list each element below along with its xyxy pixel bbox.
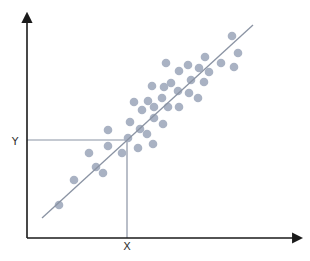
data-point [118, 149, 127, 158]
data-point [184, 61, 193, 70]
data-point [162, 59, 171, 68]
data-point [201, 53, 210, 62]
data-point [217, 59, 226, 68]
data-point [143, 130, 152, 139]
data-point [175, 67, 184, 76]
data-point [70, 176, 79, 185]
data-point [85, 149, 94, 158]
chart-canvas: Y X [0, 0, 310, 261]
data-point [205, 68, 214, 77]
data-point [167, 79, 176, 88]
data-point [187, 76, 196, 85]
data-point [150, 103, 159, 112]
scatter-chart: Y X [0, 0, 310, 261]
data-point [149, 140, 158, 149]
data-point [104, 126, 113, 135]
data-point [175, 103, 184, 112]
data-point [158, 94, 167, 103]
data-point [92, 163, 101, 172]
data-point [228, 32, 237, 41]
data-point [138, 106, 147, 115]
data-point [194, 94, 203, 103]
data-point [124, 134, 133, 143]
data-point [134, 144, 143, 153]
data-point [126, 118, 135, 127]
y-marker-label: Y [11, 135, 19, 148]
regression-line [42, 25, 253, 218]
data-point [159, 120, 168, 129]
x-marker-label: X [123, 240, 131, 253]
data-point [185, 89, 194, 98]
data-point [200, 78, 209, 87]
data-point [230, 63, 239, 72]
data-point [234, 49, 243, 58]
data-point [104, 142, 113, 151]
data-point [148, 82, 157, 91]
data-point [164, 103, 173, 112]
data-point [99, 169, 108, 178]
data-point [130, 98, 139, 107]
